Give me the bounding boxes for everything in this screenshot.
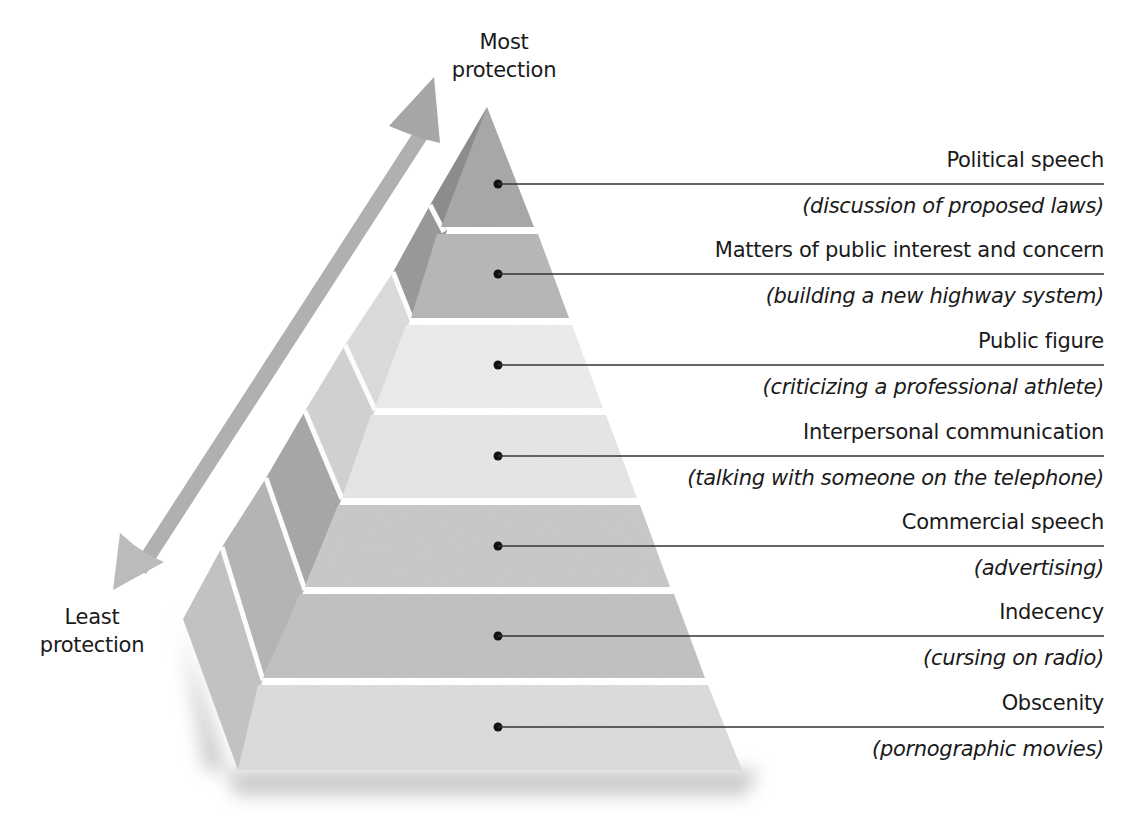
tier-2-face xyxy=(411,234,569,318)
tier-5-name: Commercial speech xyxy=(902,508,1104,536)
tier-6-example: (cursing on radio) xyxy=(923,644,1104,672)
pyramid-diagram xyxy=(0,0,1147,821)
least-protection-line-2: protection xyxy=(18,631,166,659)
tier-4-name: Interpersonal communication xyxy=(803,418,1104,446)
tier-2-name: Matters of public interest and concern xyxy=(715,236,1104,264)
tier-2-example: (building a new highway system) xyxy=(766,282,1104,310)
tier-5-example: (advertising) xyxy=(974,554,1104,582)
most-protection-line-2: protection xyxy=(430,56,578,84)
tier-7-name: Obscenity xyxy=(1002,689,1104,717)
tier-1-name: Political speech xyxy=(946,146,1104,174)
tier-7-example: (pornographic movies) xyxy=(872,735,1104,763)
most-protection-label: Most protection xyxy=(430,28,578,84)
tier-4-example: (talking with someone on the telephone) xyxy=(687,464,1104,492)
tier-6-name: Indecency xyxy=(999,598,1104,626)
tier-3-example: (criticizing a professional athlete) xyxy=(763,373,1104,401)
least-protection-label: Least protection xyxy=(18,603,166,659)
least-protection-line-1: Least xyxy=(18,603,166,631)
tier-1-example: (discussion of proposed laws) xyxy=(802,192,1104,220)
tier-3-name: Public figure xyxy=(978,327,1104,355)
leader-tier-2 xyxy=(494,270,1105,279)
most-protection-line-1: Most xyxy=(430,28,578,56)
leader-tier-1 xyxy=(494,180,1105,189)
tier-3-face xyxy=(375,325,603,408)
